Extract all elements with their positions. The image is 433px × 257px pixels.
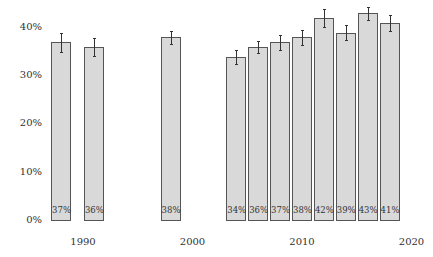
bar-chart: 0%10%20%30%40% 1990200020102020 37%36%38… [0,0,433,257]
x-tick-label: 2000 [180,236,205,247]
error-bar [324,9,325,26]
error-bar [258,41,259,53]
error-bar-cap [279,50,282,51]
y-tick-label: 10% [20,166,42,177]
x-tick-label: 2020 [399,236,424,247]
bar: 34% [226,57,246,221]
bar-value-label: 39% [337,205,355,215]
y-tick-label: 30% [20,69,42,80]
error-bar-cap [301,30,304,31]
x-tick-label: 1990 [70,236,95,247]
y-tick-label: 40% [20,21,42,32]
y-tick-label: 0% [26,214,42,225]
bar: 41% [380,23,400,221]
error-bar [236,50,237,64]
bar: 36% [84,47,104,221]
error-bar-cap [235,64,238,65]
error-bar-cap [93,56,96,57]
error-bar-cap [323,27,326,28]
error-bar [346,25,347,39]
bar: 38% [161,37,181,221]
error-bar [368,7,369,21]
error-bar-cap [257,53,260,54]
error-bar-cap [367,20,370,21]
error-bar [280,35,281,50]
error-bar [302,30,303,45]
bar-value-label: 38% [162,205,180,215]
error-bar-cap [279,35,282,36]
error-bar-cap [323,9,326,10]
error-bar-cap [60,52,63,53]
bar: 37% [51,42,71,221]
error-bar [61,33,62,52]
error-bar-cap [170,31,173,32]
bar: 38% [292,37,312,221]
bar-value-label: 37% [52,205,70,215]
error-bar-cap [60,33,63,34]
error-bar-cap [93,38,96,39]
bar-value-label: 38% [293,205,311,215]
bar-value-label: 37% [271,205,289,215]
bar-value-label: 34% [227,205,245,215]
error-bar [171,31,172,45]
bar-value-label: 41% [381,205,399,215]
bar-value-label: 42% [315,205,333,215]
error-bar-cap [235,50,238,51]
bar: 37% [270,42,290,221]
x-tick-label: 2010 [289,236,314,247]
error-bar-cap [367,7,370,8]
error-bar-cap [170,44,173,45]
error-bar-cap [257,41,260,42]
error-bar [94,38,95,56]
bar-value-label: 36% [249,205,267,215]
bar: 42% [314,18,334,221]
error-bar-cap [345,40,348,41]
bar-value-label: 43% [359,205,377,215]
error-bar-cap [389,31,392,32]
error-bar-cap [301,45,304,46]
error-bar-cap [345,25,348,26]
error-bar [390,15,391,30]
bar: 36% [248,47,268,221]
bar: 43% [358,13,378,221]
error-bar-cap [389,15,392,16]
bar: 39% [336,33,356,221]
bar-value-label: 36% [85,205,103,215]
y-tick-label: 20% [20,117,42,128]
